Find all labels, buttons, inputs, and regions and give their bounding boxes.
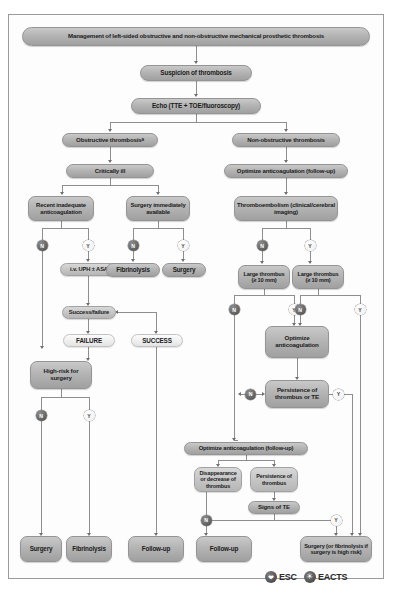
- globe-icon: ☀: [304, 571, 316, 583]
- node-obstructive-thrombosis: Obstructive thrombosisa: [62, 133, 158, 147]
- node-persistence-of-thrombus: Persistence of thrombus: [250, 467, 298, 492]
- node-success: SUCCESS: [131, 334, 183, 347]
- node-disappearance-or-decrease-of-thrombus: Disappearance or decrease of thrombus: [194, 467, 242, 492]
- branch-badge-no: N: [201, 515, 212, 526]
- node-optimize-anticoagulation-followup-bottom: Optimize anticoagulation (follow-up): [184, 442, 308, 455]
- node-non-obstructive-thrombosis: Non-obstructive thrombosis: [232, 133, 340, 147]
- footer-rule-left: [9, 578, 261, 579]
- branch-badge-yes: Y: [83, 240, 94, 251]
- branch-badge-no: N: [128, 240, 139, 251]
- esc-logo-label: ESC: [279, 572, 297, 582]
- branch-badge-yes: Y: [84, 410, 95, 421]
- flowchart-diagram: Management of left-sided obstructive and…: [0, 0, 394, 603]
- node-large-thrombus-right: Large thrombus (≥ 10 mm): [292, 265, 344, 289]
- node-signs-of-te: Signs of TE: [248, 501, 300, 514]
- node-title: Management of left-sided obstructive and…: [22, 27, 370, 46]
- node-large-thrombus-left: Large thrombus (≥ 10 mm): [238, 265, 290, 289]
- node-outcome-followup-1: Follow-up: [128, 536, 184, 562]
- node-outcome-surgery-high-risk: Surgery (or fibrinolysis if surgery is h…: [300, 536, 372, 562]
- node-thromboembolism: Thromboembolism (clinical/cerebral imagi…: [234, 196, 338, 221]
- node-success-failure: Success/failure: [62, 306, 116, 319]
- esc-logo: ❤ ESC: [265, 571, 297, 583]
- node-suspicion-of-thrombosis: Suspicion of thrombosis: [140, 65, 252, 81]
- node-optimize-anticoagulation: Optimize anticoagulation: [265, 326, 329, 358]
- node-persistence-of-thrombus-or-te: Persistence of thrombus or TE: [265, 380, 329, 408]
- footnote-marker-a: a: [142, 137, 144, 142]
- branch-badge-no: N: [229, 304, 240, 315]
- node-surgery-mid: Surgery: [162, 263, 206, 277]
- node-outcome-fibrinolysis: Fibrinolysis: [66, 536, 112, 562]
- branch-badge-yes: Y: [331, 515, 342, 526]
- branch-badge-no: N: [257, 240, 268, 251]
- eacts-logo-label: EACTS: [318, 572, 348, 582]
- node-obstructive-label: Obstructive thrombosis: [76, 137, 141, 144]
- node-surgery-immediately-available: Surgery immediately available: [126, 196, 190, 221]
- eacts-logo: ☀ EACTS: [304, 571, 348, 583]
- branch-badge-yes: Y: [305, 240, 316, 251]
- branch-badge-no: N: [245, 389, 256, 400]
- branch-badge-no: N: [37, 240, 48, 251]
- node-high-risk-for-surgery: High-risk for surgery: [30, 361, 92, 389]
- node-echo: Echo (TTE + TOE/fluoroscopy): [131, 98, 261, 114]
- branch-badge-yes: Y: [355, 304, 366, 315]
- branch-badge-yes: Y: [178, 240, 189, 251]
- node-optimize-anticoagulation-followup-top: Optimize anticoagulation (follow-up): [224, 164, 348, 178]
- node-critically-ill: Critically ill: [66, 164, 154, 178]
- node-outcome-followup-2: Follow-up: [196, 536, 252, 562]
- branch-badge-no: N: [295, 304, 306, 315]
- node-fibrinolysis-mid: Fibrinolysis: [106, 263, 160, 277]
- heart-icon: ❤: [265, 571, 277, 583]
- node-recent-inadequate-anticoagulation: Recent inadequate anticoagulation: [28, 196, 94, 221]
- node-failure: FAILURE: [63, 334, 115, 347]
- footer-rule-right: [372, 578, 383, 579]
- node-outcome-surgery: Surgery: [20, 536, 62, 562]
- branch-badge-yes: Y: [333, 389, 344, 400]
- branch-badge-no: N: [36, 410, 47, 421]
- footer-logos: ❤ ESC ☀ EACTS: [265, 571, 347, 583]
